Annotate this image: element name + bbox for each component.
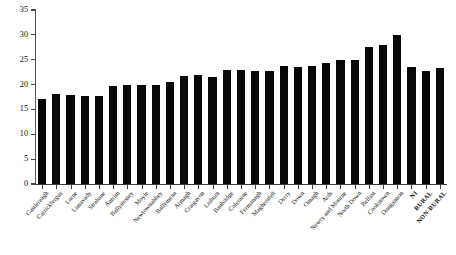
bar — [166, 82, 174, 184]
bar — [123, 85, 131, 184]
bar — [393, 35, 401, 184]
x-tick-mark — [397, 185, 398, 189]
bar — [95, 96, 103, 184]
bar — [294, 67, 302, 184]
y-tick-mark — [31, 9, 36, 10]
y-tick-label: 15 — [4, 105, 28, 113]
y-tick-label: 35 — [4, 6, 28, 14]
x-tick-mark — [85, 185, 86, 189]
bar — [237, 70, 245, 184]
bar — [336, 60, 344, 184]
bar-chart: 05101520253035 CastlereaghCarrickfergusL… — [0, 0, 456, 255]
bar — [109, 86, 117, 184]
y-tick-label: 5 — [4, 155, 28, 163]
bar — [223, 70, 231, 184]
bar — [251, 71, 259, 184]
y-tick-mark — [31, 84, 36, 85]
x-tick-mark — [284, 185, 285, 189]
bar — [137, 85, 145, 184]
x-tick-mark — [127, 185, 128, 189]
bar — [280, 66, 288, 184]
y-tick-mark — [31, 59, 36, 60]
x-tick-mark — [42, 185, 43, 189]
x-tick-mark — [113, 185, 114, 189]
bar — [66, 95, 74, 184]
x-tick-mark — [440, 185, 441, 189]
bar — [322, 63, 330, 184]
y-tick-label: 20 — [4, 81, 28, 89]
y-tick-label: 30 — [4, 31, 28, 39]
x-tick-mark — [156, 185, 157, 189]
bar — [436, 68, 444, 184]
x-tick-mark — [227, 185, 228, 189]
bar — [308, 66, 316, 184]
bar — [194, 75, 202, 184]
y-tick-mark — [31, 134, 36, 135]
x-tick-mark — [142, 185, 143, 189]
x-tick-mark — [426, 185, 427, 189]
x-tick-mark — [355, 185, 356, 189]
bar — [379, 45, 387, 184]
bar — [152, 85, 160, 184]
bar — [52, 94, 60, 184]
bar — [38, 99, 46, 184]
bar — [180, 76, 188, 184]
bar — [407, 67, 415, 184]
x-tick-mark — [326, 185, 327, 189]
y-tick-mark — [31, 159, 36, 160]
x-tick-mark — [383, 185, 384, 189]
y-tick-mark — [31, 183, 36, 184]
x-tick-mark — [255, 185, 256, 189]
bar — [422, 71, 430, 184]
x-tick-mark — [369, 185, 370, 189]
x-tick-mark — [71, 185, 72, 189]
x-tick-mark — [298, 185, 299, 189]
bar — [208, 77, 216, 184]
y-tick-label: 10 — [4, 130, 28, 138]
x-tick-label: Derry — [277, 190, 292, 205]
x-tick-mark — [170, 185, 171, 189]
x-tick-label: NI — [409, 190, 419, 200]
y-tick-mark — [31, 34, 36, 35]
x-tick-mark — [312, 185, 313, 189]
bar — [265, 71, 273, 184]
x-tick-mark — [184, 185, 185, 189]
x-tick-mark — [56, 185, 57, 189]
x-tick-mark — [241, 185, 242, 189]
bar — [365, 47, 373, 184]
y-tick-mark — [31, 109, 36, 110]
bar — [81, 96, 89, 184]
x-tick-mark — [99, 185, 100, 189]
bar — [351, 60, 359, 184]
y-tick-label: 25 — [4, 56, 28, 64]
y-tick-label: 0 — [4, 180, 28, 188]
x-tick-mark — [213, 185, 214, 189]
